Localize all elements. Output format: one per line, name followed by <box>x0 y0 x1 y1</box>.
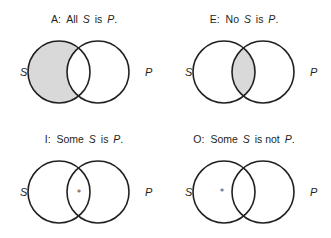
label-s: S <box>185 66 193 78</box>
asterisk-marker: * <box>77 188 82 198</box>
label-p: P <box>145 66 153 78</box>
panel-e-title: E: No S is P. <box>210 13 279 25</box>
panel-i: I: Some S is P. * S P <box>20 133 153 223</box>
panel-a: A: All S is P. S P <box>20 13 153 103</box>
label-p: P <box>145 186 153 198</box>
label-s: S <box>185 186 193 198</box>
panel-i-title: I: Some S is P. <box>45 133 124 145</box>
panel-a-title: A: All S is P. <box>51 13 117 25</box>
panel-o: O: Some S is not P. * S P <box>185 133 318 223</box>
asterisk-marker: * <box>220 187 225 197</box>
panel-o-title: O: Some S is not P. <box>193 133 294 145</box>
label-p: P <box>310 186 318 198</box>
circle-p <box>232 161 294 223</box>
label-s: S <box>20 186 28 198</box>
venn-diagram-figure: A: All S is P. S P E: No S is P. S P I: … <box>0 0 331 238</box>
label-p: P <box>310 66 318 78</box>
label-s: S <box>20 66 28 78</box>
panel-e: E: No S is P. S P <box>185 13 318 103</box>
